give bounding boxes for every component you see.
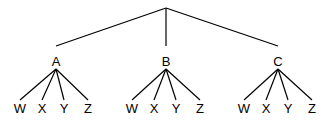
- node-c: C: [271, 55, 285, 68]
- leaf-a-y: Y: [57, 102, 71, 115]
- leaf-a-x: X: [35, 102, 49, 115]
- leaf-b-w: W: [125, 102, 139, 115]
- node-a: A: [49, 55, 63, 68]
- leaf-b-z: Z: [193, 102, 207, 115]
- leaf-b-y: Y: [169, 102, 183, 115]
- leaf-c-y: Y: [281, 102, 295, 115]
- node-b: B: [159, 55, 173, 68]
- leaf-c-w: W: [237, 102, 251, 115]
- leaf-a-z: Z: [81, 102, 95, 115]
- leaf-c-x: X: [259, 102, 273, 115]
- leaf-a-w: W: [13, 102, 27, 115]
- tree-diagram: A B C W X Y Z W X Y Z W X Y Z: [0, 0, 330, 121]
- leaf-c-z: Z: [305, 102, 319, 115]
- leaf-b-x: X: [147, 102, 161, 115]
